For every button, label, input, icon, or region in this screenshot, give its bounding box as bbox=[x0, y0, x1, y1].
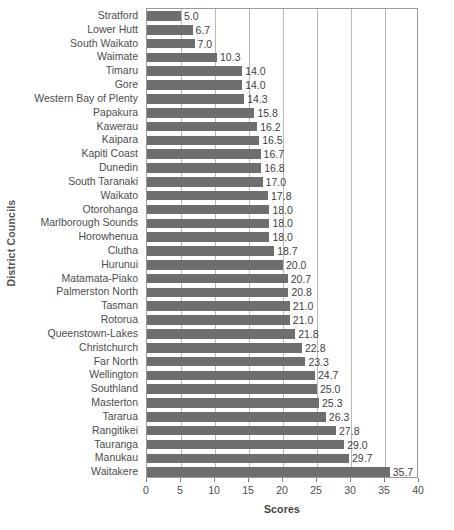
bar-row[interactable]: 16.2 bbox=[147, 120, 417, 135]
x-axis-tick-label: 15 bbox=[242, 484, 254, 496]
bar[interactable] bbox=[147, 53, 217, 63]
x-axis-tick-label: 35 bbox=[378, 484, 390, 496]
bar-row[interactable]: 26.3 bbox=[147, 410, 417, 425]
category-label: Lower Hutt bbox=[87, 22, 138, 37]
bar-row[interactable]: 25.3 bbox=[147, 396, 417, 411]
bar-value-label: 20.8 bbox=[288, 285, 311, 300]
bar[interactable] bbox=[147, 66, 242, 76]
bar[interactable] bbox=[147, 329, 295, 339]
bar-value-label: 20.0 bbox=[283, 258, 306, 273]
bar-row[interactable]: 21.8 bbox=[147, 327, 417, 342]
bar[interactable] bbox=[147, 25, 193, 35]
bar-row[interactable]: 16.8 bbox=[147, 161, 417, 176]
category-label: Southland bbox=[91, 381, 138, 396]
bar[interactable] bbox=[147, 371, 315, 381]
x-axis-tick-label: 20 bbox=[276, 484, 288, 496]
bar[interactable] bbox=[147, 94, 244, 104]
bar[interactable] bbox=[147, 149, 261, 159]
bar-row[interactable]: 10.3 bbox=[147, 50, 417, 65]
bar-row[interactable]: 15.8 bbox=[147, 106, 417, 121]
bar[interactable] bbox=[147, 122, 257, 132]
category-label: Matamata-Piako bbox=[62, 271, 138, 286]
bar-row[interactable]: 14.0 bbox=[147, 78, 417, 93]
bar-row[interactable]: 6.7 bbox=[147, 23, 417, 38]
bar-row[interactable]: 21.0 bbox=[147, 313, 417, 328]
bar[interactable] bbox=[147, 177, 263, 187]
bar[interactable] bbox=[147, 80, 242, 90]
bar[interactable] bbox=[147, 384, 317, 394]
bar[interactable] bbox=[147, 136, 259, 146]
x-axis-tick bbox=[384, 478, 385, 482]
bar[interactable] bbox=[147, 232, 269, 242]
bar-row[interactable]: 5.0 bbox=[147, 9, 417, 24]
bar-row[interactable]: 20.8 bbox=[147, 285, 417, 300]
bar[interactable] bbox=[147, 412, 326, 422]
category-label: Stratford bbox=[98, 8, 138, 23]
category-label: South Waikato bbox=[70, 36, 138, 51]
bar[interactable] bbox=[147, 260, 283, 270]
bar[interactable] bbox=[147, 163, 261, 173]
bar-row[interactable]: 21.0 bbox=[147, 299, 417, 314]
bar-row[interactable]: 20.0 bbox=[147, 258, 417, 273]
bar[interactable] bbox=[147, 426, 336, 436]
bar-value-label: 23.3 bbox=[305, 355, 328, 370]
bar[interactable] bbox=[147, 398, 319, 408]
bar[interactable] bbox=[147, 440, 344, 450]
bar[interactable] bbox=[147, 11, 181, 21]
category-label: Waimate bbox=[97, 49, 138, 64]
bar[interactable] bbox=[147, 343, 302, 353]
bar[interactable] bbox=[147, 467, 390, 477]
bar[interactable] bbox=[147, 219, 269, 229]
bar[interactable] bbox=[147, 39, 195, 49]
x-axis-tick bbox=[248, 478, 249, 482]
bar[interactable] bbox=[147, 454, 349, 464]
bar-value-label: 27.8 bbox=[336, 424, 359, 439]
bar-row[interactable]: 7.0 bbox=[147, 37, 417, 52]
bar-row[interactable]: 14.3 bbox=[147, 92, 417, 107]
bar[interactable] bbox=[147, 246, 274, 256]
bar[interactable] bbox=[147, 315, 290, 325]
x-axis-tick bbox=[214, 478, 215, 482]
bar-value-label: 16.2 bbox=[257, 120, 280, 135]
category-label: Kaipara bbox=[102, 132, 138, 147]
category-label: South Taranaki bbox=[68, 174, 138, 189]
bar[interactable] bbox=[147, 301, 290, 311]
bar[interactable] bbox=[147, 191, 268, 201]
category-label: Manukau bbox=[95, 450, 138, 465]
bar-row[interactable]: 27.8 bbox=[147, 424, 417, 439]
y-axis-title-label: District Councils bbox=[5, 200, 17, 287]
bar-row[interactable]: 18.7 bbox=[147, 244, 417, 259]
category-label: Kawerau bbox=[97, 119, 138, 134]
bar-row[interactable]: 18.0 bbox=[147, 216, 417, 231]
bar[interactable] bbox=[147, 108, 254, 118]
bar-row[interactable]: 17.8 bbox=[147, 189, 417, 204]
bar-row[interactable]: 14.0 bbox=[147, 64, 417, 79]
bar[interactable] bbox=[147, 205, 269, 215]
bar-value-label: 16.8 bbox=[261, 161, 284, 176]
bar-value-label: 18.0 bbox=[269, 230, 292, 245]
bar-row[interactable]: 25.0 bbox=[147, 382, 417, 397]
bar-row[interactable]: 16.7 bbox=[147, 147, 417, 162]
bar-row[interactable]: 22.8 bbox=[147, 341, 417, 356]
category-axis: StratfordLower HuttSouth WaikatoWaimateT… bbox=[20, 8, 142, 478]
category-label: Hurunui bbox=[101, 257, 138, 272]
category-label: Western Bay of Plenty bbox=[34, 91, 138, 106]
bar-row[interactable]: 20.7 bbox=[147, 272, 417, 287]
category-label: Papakura bbox=[93, 105, 138, 120]
bar-value-label: 14.0 bbox=[242, 78, 265, 93]
bar-row[interactable]: 17.0 bbox=[147, 175, 417, 190]
x-axis-tick bbox=[180, 478, 181, 482]
bar-row[interactable]: 18.0 bbox=[147, 203, 417, 218]
bar-row[interactable]: 18.0 bbox=[147, 230, 417, 245]
bar-value-label: 14.0 bbox=[242, 64, 265, 79]
bar[interactable] bbox=[147, 357, 305, 367]
bar-row[interactable]: 29.0 bbox=[147, 438, 417, 453]
bar-value-label: 20.7 bbox=[288, 272, 311, 287]
bar[interactable] bbox=[147, 288, 288, 298]
bar-row[interactable]: 29.7 bbox=[147, 451, 417, 466]
bar-row[interactable]: 16.5 bbox=[147, 133, 417, 148]
bar[interactable] bbox=[147, 274, 288, 284]
x-axis-tick-label: 25 bbox=[310, 484, 322, 496]
bar-row[interactable]: 24.7 bbox=[147, 368, 417, 383]
bar-row[interactable]: 23.3 bbox=[147, 355, 417, 370]
